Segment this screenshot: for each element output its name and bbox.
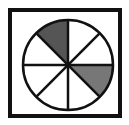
sector-dividers <box>23 20 113 110</box>
shaded-sector <box>68 65 113 97</box>
fraction-circle-diagram <box>0 0 129 125</box>
shaded-sector <box>36 20 68 65</box>
